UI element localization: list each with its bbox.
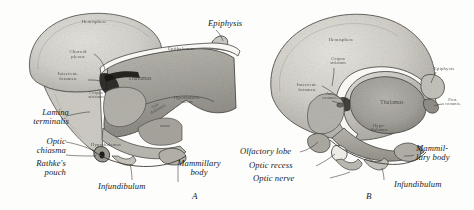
label-epiphysis-b: Epiphysis	[420, 66, 468, 71]
label-optic-recess-b: Optic recess	[249, 161, 293, 170]
leader-optic-recess-b	[316, 154, 335, 166]
label-corpus-striatum-a: Corpus striatum	[78, 91, 114, 100]
label-optic-nerve-b: Optic nerve	[253, 174, 294, 183]
label-optic-chiasma-a: Optic chiasma	[6, 137, 66, 155]
label-epiphysis-a: Epiphysis	[208, 19, 242, 28]
label-lamina-terminalis-a: Lamina terminalis	[11, 108, 69, 126]
optic-chiasma-shape-a	[94, 147, 110, 162]
ant-commis-shape-b	[337, 103, 343, 107]
hypothalamus-shape-b	[332, 128, 424, 161]
label-intervent-foramen-a: Intervent. foramen	[46, 71, 90, 81]
infundibulum-shape-b	[364, 158, 388, 170]
label-hypothalamus-a: Hypothalamus	[80, 142, 132, 147]
label-intervent-foramen-b: Intervent. foramen	[285, 82, 329, 92]
olfactory-lobe-shape-b	[308, 134, 330, 153]
label-sub-thalamus-a: Sub- thalamus	[141, 96, 173, 120]
subthalamus-shape-a	[138, 118, 182, 145]
leader-intervent-foramen-a	[88, 80, 102, 82]
label-hemisphere-b: Hemisphere	[313, 37, 369, 42]
leader-rathkes-a	[66, 155, 96, 156]
leader-olfactory-b	[300, 142, 318, 152]
leader-infundibulum-b	[382, 168, 384, 180]
label-epithalamus-a: Epithalamus	[155, 46, 207, 51]
leader-optic-nerve-b	[330, 172, 350, 178]
rathkes-pouch-shape-a	[99, 152, 104, 159]
leader-epiphysis-a	[216, 30, 223, 41]
panel-label-a: A	[192, 192, 198, 201]
epiphysis-shape-a	[212, 36, 228, 49]
hemisphere-shape-b	[271, 14, 435, 140]
infundibulum-shape-a	[112, 156, 136, 165]
label-corpus-striatum-b: Corpus striatum	[320, 57, 356, 66]
label-hypothalamus-b: Hypo- thalamus	[364, 124, 394, 133]
leader-ant-commis-b	[332, 101, 340, 104]
optic-nerve-shape-b	[336, 159, 362, 170]
label-olfactory-lobe-b: Olfactory lobe	[240, 147, 291, 156]
label-infundibulum-a: Infundibulum	[98, 182, 146, 191]
label-post-commis-b: Post. commis.	[437, 98, 469, 107]
panel-label-b: B	[366, 192, 372, 201]
leader-epiphysis-b	[431, 72, 436, 83]
label-hemisphere-a: Hemisphere	[66, 19, 122, 24]
optic-recess-shape-b	[331, 145, 347, 161]
label-thalamus-b: Thalamus	[370, 100, 414, 106]
leader-corpus-striatum-b	[332, 68, 334, 86]
leader-infundibulum-a	[130, 164, 132, 180]
label-choroid-plexus-a: Choroid plexus	[58, 49, 98, 59]
label-rathkes-pouch-a: Rathke's pouch	[6, 159, 66, 177]
leader-lamina-a	[66, 112, 90, 116]
label-ant-commis-b: Ant. commis.	[316, 92, 344, 101]
label-infundibulum-b: Infundibulum	[394, 180, 442, 189]
epiphysis-shape-b	[421, 74, 445, 99]
label-thalamus-a: Thalamus	[118, 76, 162, 82]
figure-root: Hemisphere Choroid plexus Intervent. for…	[0, 0, 474, 210]
label-mammillary-body-b: Mammil- lary body	[416, 144, 472, 162]
leader-mammillary-b	[404, 155, 414, 156]
thalamus-shape-a	[104, 48, 236, 137]
label-mammillary-body-a: Mammillary body	[166, 159, 232, 177]
